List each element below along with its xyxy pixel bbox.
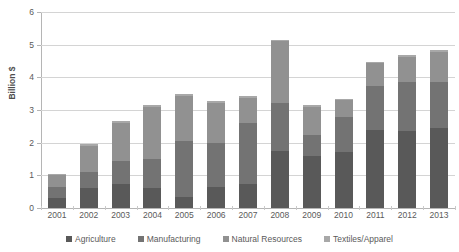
bar-2012[interactable] xyxy=(398,55,416,208)
x-axis-tick xyxy=(168,206,169,210)
bar-segment-manufacturing xyxy=(207,143,225,187)
x-axis-label-2007: 2007 xyxy=(239,210,258,220)
bar-2003[interactable] xyxy=(112,121,130,208)
bar-segment-agriculture xyxy=(398,131,416,208)
x-axis-label-2002: 2002 xyxy=(79,210,98,220)
bar-segment-manufacturing xyxy=(398,82,416,131)
bar-group xyxy=(41,12,455,208)
bar-segment-manufacturing xyxy=(303,135,321,156)
x-axis-label-2010: 2010 xyxy=(334,210,353,220)
x-axis-label-2011: 2011 xyxy=(366,210,384,220)
bar-segment-manufacturing xyxy=(112,161,130,184)
bar-2005[interactable] xyxy=(175,94,193,208)
bar-2002[interactable] xyxy=(80,144,98,208)
y-axis-tick-label: 3 xyxy=(29,106,34,115)
legend-label-agriculture: Agriculture xyxy=(75,234,116,244)
bar-segment-agriculture xyxy=(335,152,353,208)
x-axis-tick xyxy=(41,206,42,210)
bar-segment-agriculture xyxy=(175,197,193,208)
x-axis-tick xyxy=(423,206,424,210)
bar-segment-agriculture xyxy=(207,187,225,208)
bar-segment-natural-resources xyxy=(207,103,225,143)
bar-segment-agriculture xyxy=(143,188,161,208)
x-axis-tick xyxy=(232,206,233,210)
stacked-bar-chart: Billion $ 0123456 2001200220032004200520… xyxy=(0,0,459,252)
x-axis-tick xyxy=(137,206,138,210)
bar-segment-natural-resources xyxy=(112,123,130,161)
legend-swatch-agriculture xyxy=(66,236,72,242)
bar-segment-manufacturing xyxy=(80,172,98,188)
legend-label-manufacturing: Manufacturing xyxy=(147,234,201,244)
bar-segment-agriculture xyxy=(303,156,321,208)
x-axis-label-2013: 2013 xyxy=(430,210,449,220)
y-axis-tick-label: 1 xyxy=(29,171,34,180)
bar-2009[interactable] xyxy=(303,105,321,208)
x-axis-label-2001: 2001 xyxy=(47,210,66,220)
x-axis-label-2006: 2006 xyxy=(207,210,226,220)
legend-label-natural-resources: Natural Resources xyxy=(232,234,302,244)
bar-segment-agriculture xyxy=(430,128,448,208)
bar-segment-natural-resources xyxy=(175,96,193,141)
x-axis-labels: 2001200220032004200520062007200820092010… xyxy=(41,210,455,224)
plot-area: 0123456 xyxy=(41,12,455,208)
bar-segment-manufacturing xyxy=(239,123,257,183)
x-axis-label-2003: 2003 xyxy=(111,210,130,220)
bar-segment-natural-resources xyxy=(239,98,257,123)
chart-legend: AgricultureManufacturingNatural Resource… xyxy=(0,232,459,246)
bar-segment-agriculture xyxy=(80,188,98,208)
bar-segment-natural-resources xyxy=(398,57,416,82)
legend-item-textiles-apparel[interactable]: Textiles/Apparel xyxy=(324,234,393,244)
y-axis-tick-label: 4 xyxy=(29,73,34,82)
x-axis-label-2009: 2009 xyxy=(302,210,321,220)
x-axis-tick xyxy=(105,206,106,210)
bar-segment-natural-resources xyxy=(143,107,161,159)
legend-label-textiles-apparel: Textiles/Apparel xyxy=(333,234,393,244)
bar-segment-natural-resources xyxy=(80,146,98,172)
bar-segment-manufacturing xyxy=(430,82,448,128)
bar-segment-agriculture xyxy=(366,130,384,208)
bar-segment-manufacturing xyxy=(366,86,384,130)
y-axis-tick-label: 2 xyxy=(29,138,34,147)
bar-2006[interactable] xyxy=(207,101,225,208)
bar-segment-natural-resources xyxy=(366,63,384,85)
legend-item-agriculture[interactable]: Agriculture xyxy=(66,234,116,244)
x-axis-tick xyxy=(455,206,456,210)
x-axis-label-2008: 2008 xyxy=(270,210,289,220)
bar-2007[interactable] xyxy=(239,96,257,208)
bar-segment-natural-resources xyxy=(271,41,289,103)
x-axis-tick xyxy=(264,206,265,210)
bar-2011[interactable] xyxy=(366,62,384,208)
x-axis-tick xyxy=(391,206,392,210)
bar-2013[interactable] xyxy=(430,50,448,208)
x-axis-label-2005: 2005 xyxy=(175,210,194,220)
bar-segment-natural-resources xyxy=(430,52,448,82)
bar-2008[interactable] xyxy=(271,40,289,208)
bar-segment-manufacturing xyxy=(175,141,193,197)
legend-item-natural-resources[interactable]: Natural Resources xyxy=(223,234,302,244)
bar-segment-manufacturing xyxy=(335,117,353,153)
bar-segment-natural-resources xyxy=(303,107,321,135)
x-axis-tick xyxy=(296,206,297,210)
bar-segment-agriculture xyxy=(112,184,130,209)
bar-2004[interactable] xyxy=(143,105,161,208)
y-axis-tick-label: 0 xyxy=(29,204,34,213)
bar-segment-manufacturing xyxy=(143,159,161,188)
bar-2001[interactable] xyxy=(48,174,66,208)
legend-swatch-natural-resources xyxy=(223,236,229,242)
bar-segment-agriculture xyxy=(271,151,289,208)
legend-swatch-textiles-apparel xyxy=(324,236,330,242)
bar-2010[interactable] xyxy=(335,99,353,208)
x-axis-tick xyxy=(200,206,201,210)
bar-segment-natural-resources xyxy=(335,100,353,116)
x-axis-tick xyxy=(359,206,360,210)
x-axis-label-2012: 2012 xyxy=(398,210,417,220)
legend-swatch-manufacturing xyxy=(138,236,144,242)
bar-segment-agriculture xyxy=(48,198,66,208)
x-axis-line xyxy=(41,208,455,209)
y-axis-tick-label: 5 xyxy=(29,40,34,49)
bar-segment-agriculture xyxy=(239,184,257,209)
x-axis-label-2004: 2004 xyxy=(143,210,162,220)
legend-item-manufacturing[interactable]: Manufacturing xyxy=(138,234,201,244)
y-axis-tick-label: 6 xyxy=(29,8,34,17)
bar-segment-manufacturing xyxy=(48,187,66,198)
